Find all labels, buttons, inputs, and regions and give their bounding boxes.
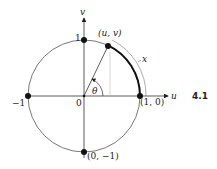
label-bottom: (0, −1) <box>87 151 119 161</box>
v-axis-label: v <box>80 7 85 17</box>
point-top <box>81 37 87 43</box>
label-uv: (u, v) <box>98 28 122 38</box>
theta-label: θ <box>92 86 98 96</box>
arc-bracket <box>112 40 146 96</box>
point-uv <box>105 43 111 49</box>
label-left: −1 <box>12 98 25 108</box>
label-top: 1 <box>75 33 81 43</box>
figure-number: 4.1 <box>192 91 208 101</box>
arc-length-label: x <box>142 54 147 64</box>
label-right: (1, 0) <box>140 97 164 107</box>
u-axis-label: u <box>171 91 177 101</box>
point-origin <box>83 95 86 98</box>
arc-x <box>108 45 140 96</box>
point-left <box>25 93 31 99</box>
unit-circle-diagram: v u 1 −1 0 (1, 0) (0, −1) (u, v) θ x 4.1 <box>0 0 217 169</box>
label-origin: 0 <box>76 98 82 108</box>
arc-bracket-tick <box>138 60 141 62</box>
